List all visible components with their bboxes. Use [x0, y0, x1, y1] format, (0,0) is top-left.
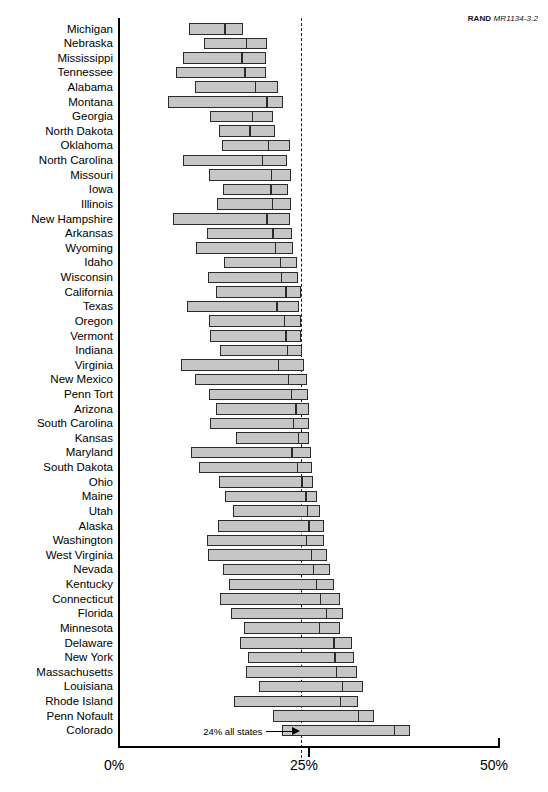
range-bar-point-marker	[241, 52, 243, 64]
range-bar-point-marker	[281, 272, 283, 284]
range-bar	[219, 125, 276, 137]
state-label: Arizona	[0, 403, 113, 416]
state-label: Massachusetts	[0, 666, 113, 679]
range-bar-point-marker	[326, 608, 328, 620]
range-bar-point-marker	[307, 505, 309, 517]
range-bar	[199, 462, 312, 474]
bar-row	[118, 212, 500, 227]
range-bar	[208, 272, 298, 284]
state-label: Delaware	[0, 637, 113, 650]
bar-row	[118, 154, 500, 169]
state-label: New York	[0, 651, 113, 664]
bar-row	[118, 197, 500, 212]
range-bar-point-marker	[295, 403, 297, 415]
state-label: Idaho	[0, 256, 113, 269]
bar-row	[118, 490, 500, 505]
range-bar	[196, 242, 293, 254]
bar-row	[118, 358, 500, 373]
bar-row	[118, 519, 500, 534]
range-bar	[229, 579, 334, 591]
range-bar-point-marker	[298, 432, 300, 444]
bar-row	[118, 51, 500, 66]
bar-row	[118, 110, 500, 125]
state-label: Tennessee	[0, 66, 113, 79]
range-bar-point-marker	[333, 637, 335, 649]
state-label: Kentucky	[0, 578, 113, 591]
state-label: Nevada	[0, 563, 113, 576]
state-label: Texas	[0, 300, 113, 313]
range-bar	[187, 301, 299, 313]
range-bar-point-marker	[280, 257, 282, 269]
bar-row	[118, 651, 500, 666]
reference-line-annotation: 24% all states	[118, 724, 301, 738]
range-bar-point-marker	[278, 359, 280, 371]
range-bar	[217, 198, 290, 210]
state-label: Arkansas	[0, 227, 113, 240]
x-tick-label-0: 0%	[104, 757, 124, 773]
bar-row	[118, 592, 500, 607]
range-bar	[195, 374, 307, 386]
range-bar-point-marker	[266, 96, 268, 108]
state-label: South Carolina	[0, 417, 113, 430]
range-bar	[282, 725, 410, 737]
range-bar	[189, 23, 243, 35]
figure-chart-state-ranges: RAND MR1134-3.2 MichiganNebraskaMississi…	[0, 0, 548, 792]
range-bar-point-marker	[246, 38, 248, 50]
bar-row	[118, 183, 500, 198]
state-label: Ohio	[0, 476, 113, 489]
bar-row	[118, 285, 500, 300]
state-label: Indiana	[0, 344, 113, 357]
range-bar	[219, 476, 313, 488]
bar-row	[118, 95, 500, 110]
x-tick-label-50: 50%	[480, 757, 508, 773]
range-bar-point-marker	[276, 301, 278, 313]
bar-row	[118, 709, 500, 724]
bar-row	[118, 461, 500, 476]
plot-area: 24% all states	[118, 18, 500, 748]
range-bar-point-marker	[287, 345, 289, 357]
range-bar-point-marker	[320, 593, 322, 605]
state-label-column: MichiganNebraskaMississippiTennesseeAlab…	[0, 18, 113, 748]
state-label: Penn Nofault	[0, 710, 113, 723]
range-bar-point-marker	[291, 389, 293, 401]
bar-row	[118, 22, 500, 37]
range-bar	[248, 652, 354, 664]
state-label: California	[0, 286, 113, 299]
range-bar-point-marker	[272, 198, 274, 210]
range-bar-point-marker	[297, 462, 299, 474]
state-label: Georgia	[0, 110, 113, 123]
bar-row	[118, 563, 500, 578]
state-label: Montana	[0, 96, 113, 109]
range-bar	[207, 228, 293, 240]
bar-row	[118, 607, 500, 622]
range-bar-point-marker	[288, 374, 290, 386]
bar-row	[118, 300, 500, 315]
state-label: Penn Tort	[0, 388, 113, 401]
bar-row	[118, 402, 500, 417]
range-bar	[223, 564, 330, 576]
state-label: Utah	[0, 505, 113, 518]
range-bar-point-marker	[272, 228, 274, 240]
range-bar-point-marker	[244, 67, 246, 79]
state-label: Iowa	[0, 183, 113, 196]
bar-row	[118, 388, 500, 403]
range-bar-point-marker	[293, 418, 295, 430]
range-bar-point-marker	[275, 242, 277, 254]
state-label: New Hampshire	[0, 213, 113, 226]
bar-row	[118, 548, 500, 563]
range-bar-point-marker	[316, 579, 318, 591]
range-bar	[210, 330, 302, 342]
bar-row	[118, 431, 500, 446]
state-label: Mississippi	[0, 52, 113, 65]
range-bar	[210, 111, 273, 123]
state-label: Michigan	[0, 23, 113, 36]
range-bar	[259, 681, 363, 693]
state-label: Alabama	[0, 81, 113, 94]
bar-row	[118, 329, 500, 344]
bar-row	[118, 256, 500, 271]
range-bar-point-marker	[319, 622, 321, 634]
state-label: North Dakota	[0, 125, 113, 138]
state-label: Washington	[0, 534, 113, 547]
range-bar-point-marker	[224, 23, 226, 35]
bar-row	[118, 475, 500, 490]
